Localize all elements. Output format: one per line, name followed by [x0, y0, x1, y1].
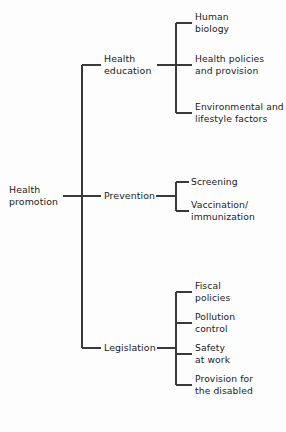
node-health-promotion: Health promotion [8, 184, 59, 207]
node-screening: Screening [190, 176, 239, 188]
node-prevention: Prevention [103, 190, 156, 202]
node-safety-at-work: Safety at work [194, 342, 231, 365]
node-provision-for-the-disabled: Provision for the disabled [194, 373, 254, 396]
node-health-education: Health education [103, 53, 152, 76]
node-vaccination-immunization: Vaccination/ immunization [190, 199, 256, 222]
health-promotion-tree-diagram: Health promotion Health education Preven… [0, 0, 286, 432]
node-legislation: Legislation [103, 342, 157, 354]
node-health-policies-and-provision: Health policies and provision [194, 53, 265, 76]
node-fiscal-policies: Fiscal policies [194, 280, 231, 303]
node-environmental-and-lifestyle-factors: Environmental and lifestyle factors [194, 101, 285, 124]
node-human-biology: Human biology [194, 11, 230, 34]
node-pollution-control: Pollution control [194, 311, 236, 334]
